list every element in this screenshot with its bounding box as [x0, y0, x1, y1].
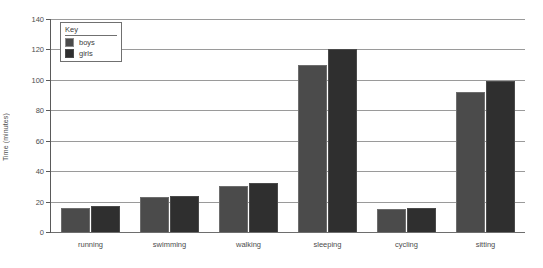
gridline [51, 80, 525, 81]
bar-cycling-boys [377, 209, 406, 232]
x-axis-label-sleeping: sleeping [314, 240, 342, 249]
y-tick-label: 0 [18, 228, 44, 237]
bar-chart: Time (minutes) 020406080100120140 runnin… [0, 0, 543, 268]
gridline [51, 232, 525, 233]
x-axis-label-cycling: cycling [395, 240, 418, 249]
gridline [51, 171, 525, 172]
gridline [51, 202, 525, 203]
x-axis-label-walking: walking [236, 240, 261, 249]
plot-area [51, 19, 525, 232]
girls-swatch-icon [65, 49, 74, 58]
legend: Key boys girls [60, 22, 122, 62]
bar-sleeping-girls [328, 49, 357, 232]
y-tick-label: 60 [18, 136, 44, 145]
boys-swatch-icon [65, 38, 74, 47]
gridline [51, 19, 525, 20]
bar-running-boys [61, 208, 90, 232]
gridline [51, 110, 525, 111]
y-tick-label: 120 [18, 45, 44, 54]
bar-cycling-girls [407, 208, 436, 232]
y-tick-label: 40 [18, 167, 44, 176]
legend-item-label: boys [79, 38, 95, 47]
bar-walking-girls [249, 183, 278, 232]
x-axis-label-swimming: swimming [153, 240, 186, 249]
y-axis-label: Time (minutes) [2, 92, 16, 182]
gridline [51, 49, 525, 50]
y-tick-label: 80 [18, 106, 44, 115]
bar-sitting-girls [486, 81, 515, 232]
gridline [51, 141, 525, 142]
bar-swimming-boys [140, 197, 169, 232]
y-tick-label: 100 [18, 75, 44, 84]
legend-item-label: girls [79, 49, 93, 58]
y-tick-label: 20 [18, 197, 44, 206]
y-tick-label: 140 [18, 15, 44, 24]
legend-title: Key [65, 25, 117, 36]
bar-sleeping-boys [298, 65, 327, 232]
bar-running-girls [91, 206, 120, 232]
bar-walking-boys [219, 186, 248, 232]
bar-sitting-boys [456, 92, 485, 232]
legend-item-boys: boys [65, 38, 117, 47]
bar-swimming-girls [170, 196, 199, 233]
x-axis-label-sitting: sitting [476, 240, 496, 249]
x-axis-label-running: running [78, 240, 103, 249]
legend-item-girls: girls [65, 49, 117, 58]
